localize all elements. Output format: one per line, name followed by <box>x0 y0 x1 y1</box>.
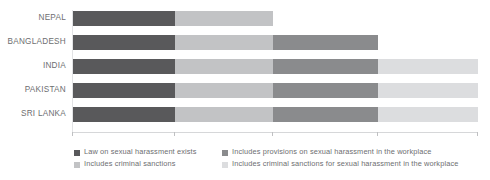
bar-track-india <box>73 59 478 74</box>
legend-item-law-exists[interactable]: Law on sexual harassment exists <box>74 147 197 159</box>
x-axis-line <box>72 132 478 133</box>
legend-swatch-icon <box>74 162 80 168</box>
bar-segment-law-exists[interactable] <box>73 83 175 98</box>
legend-label: Includes provisions on sexual harassment… <box>232 147 432 157</box>
bar-segment-criminal-sanctions[interactable] <box>175 107 273 122</box>
bar-segment-criminal-sanctions[interactable] <box>175 35 273 50</box>
bar-track-sri-lanka <box>73 107 478 122</box>
bar-row-pakistan[interactable]: PAKISTAN <box>0 78 490 102</box>
bar-segment-law-exists[interactable] <box>73 107 175 122</box>
bar-track-nepal <box>73 11 273 26</box>
category-label-pakistan: PAKISTAN <box>0 78 66 102</box>
bar-rows: NEPAL BANGLADESH INDIA <box>0 6 490 126</box>
x-axis-tick <box>174 132 175 136</box>
x-axis-tick <box>72 132 73 136</box>
bar-segment-law-exists[interactable] <box>73 11 175 26</box>
bar-segment-workplace-provisions[interactable] <box>273 83 378 98</box>
category-label-india: INDIA <box>0 54 66 78</box>
bar-segment-workplace-criminal-sanctions[interactable] <box>378 59 478 74</box>
category-label-sri-lanka: SRI LANKA <box>0 102 66 126</box>
legend-label: Includes criminal sanctions <box>84 159 176 169</box>
bar-segment-criminal-sanctions[interactable] <box>175 83 273 98</box>
x-axis-tick <box>477 132 478 136</box>
bar-segment-workplace-provisions[interactable] <box>273 107 378 122</box>
legend-swatch-icon <box>222 150 228 156</box>
legend-item-workplace-provisions[interactable]: Includes provisions on sexual harassment… <box>222 147 432 159</box>
legend-label: Law on sexual harassment exists <box>84 147 197 157</box>
legend-swatch-icon <box>222 162 228 168</box>
legend-item-workplace-criminal-sanctions[interactable]: Includes criminal sanctions for sexual h… <box>222 159 458 171</box>
bar-track-bangladesh <box>73 35 378 50</box>
bar-segment-criminal-sanctions[interactable] <box>175 11 273 26</box>
bar-row-nepal[interactable]: NEPAL <box>0 6 490 30</box>
bar-segment-workplace-criminal-sanctions[interactable] <box>378 107 478 122</box>
bar-track-pakistan <box>73 83 478 98</box>
legend-item-criminal-sanctions[interactable]: Includes criminal sanctions <box>74 159 176 171</box>
chart-legend: Law on sexual harassment exists Includes… <box>0 146 490 176</box>
legend-swatch-icon <box>74 150 80 156</box>
bar-segment-criminal-sanctions[interactable] <box>175 59 273 74</box>
category-label-nepal: NEPAL <box>0 6 66 30</box>
bar-segment-workplace-provisions[interactable] <box>273 35 378 50</box>
bar-segment-law-exists[interactable] <box>73 35 175 50</box>
x-axis-tick <box>272 132 273 136</box>
bar-segment-workplace-provisions[interactable] <box>273 59 378 74</box>
bar-row-sri-lanka[interactable]: SRI LANKA <box>0 102 490 126</box>
bar-row-india[interactable]: INDIA <box>0 54 490 78</box>
category-label-bangladesh: BANGLADESH <box>0 30 66 54</box>
legend-label: Includes criminal sanctions for sexual h… <box>232 159 458 169</box>
bar-segment-law-exists[interactable] <box>73 59 175 74</box>
bar-segment-workplace-criminal-sanctions[interactable] <box>378 83 478 98</box>
x-axis-tick <box>377 132 378 136</box>
bar-row-bangladesh[interactable]: BANGLADESH <box>0 30 490 54</box>
stacked-bar-chart: NEPAL BANGLADESH INDIA <box>0 0 490 180</box>
plot-area: NEPAL BANGLADESH INDIA <box>0 6 490 132</box>
